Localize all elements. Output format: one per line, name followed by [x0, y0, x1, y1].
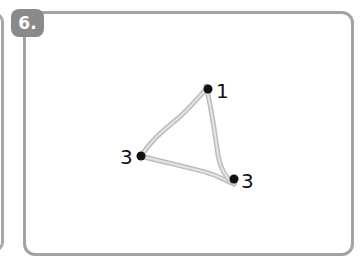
vertex-label-top: 1 — [216, 79, 229, 103]
vertex-left — [137, 152, 146, 161]
vertex-label-bottom-right: 3 — [241, 169, 254, 193]
vertex-label-left: 3 — [120, 145, 133, 169]
graph-diagram: 1 3 3 — [0, 0, 363, 264]
vertex-bottom-right — [230, 175, 239, 184]
vertex-top — [204, 85, 213, 94]
